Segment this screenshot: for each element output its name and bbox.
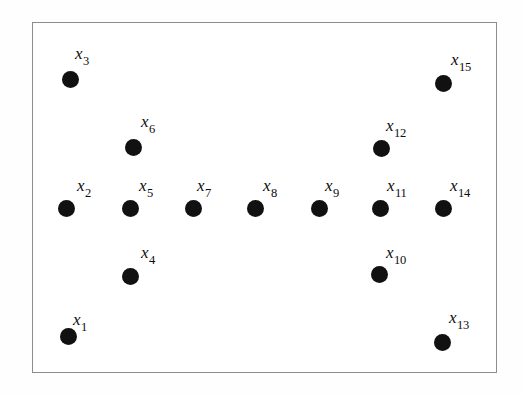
data-point-x7 xyxy=(185,200,202,217)
point-label-base: x xyxy=(386,243,394,262)
point-label-x3: x3 xyxy=(75,45,89,66)
data-point-x8 xyxy=(247,200,264,217)
point-label-subscript: 9 xyxy=(333,186,339,200)
point-label-base: x xyxy=(197,176,205,195)
point-label-x4: x4 xyxy=(141,244,155,265)
point-label-base: x xyxy=(387,176,395,195)
point-label-base: x xyxy=(386,116,394,135)
point-label-x10: x10 xyxy=(386,244,405,265)
point-label-x15: x15 xyxy=(451,51,470,72)
data-point-x2 xyxy=(58,200,75,217)
point-label-x9: x9 xyxy=(325,177,339,198)
data-point-x12 xyxy=(373,140,390,157)
point-label-subscript: 2 xyxy=(85,186,91,200)
point-label-x7: x7 xyxy=(197,177,211,198)
point-label-subscript: 8 xyxy=(271,186,277,200)
point-label-base: x xyxy=(263,176,271,195)
point-label-base: x xyxy=(77,176,85,195)
point-label-x8: x8 xyxy=(263,177,277,198)
point-label-subscript: 15 xyxy=(459,60,471,74)
point-label-subscript: 14 xyxy=(458,186,470,200)
point-label-subscript: 5 xyxy=(147,186,153,200)
point-label-x2: x2 xyxy=(77,177,91,198)
point-label-x11: x11 xyxy=(387,177,406,198)
data-point-x9 xyxy=(311,200,328,217)
point-label-base: x xyxy=(451,50,459,69)
point-label-base: x xyxy=(141,243,149,262)
point-label-x14: x14 xyxy=(450,177,469,198)
point-label-x5: x5 xyxy=(139,177,153,198)
point-label-subscript: 7 xyxy=(205,186,211,200)
data-point-x11 xyxy=(372,200,389,217)
point-label-x12: x12 xyxy=(386,117,405,138)
data-point-x13 xyxy=(434,334,451,351)
point-label-subscript: 11 xyxy=(395,186,406,200)
data-point-x14 xyxy=(435,200,452,217)
point-label-base: x xyxy=(449,308,457,327)
point-label-subscript: 3 xyxy=(83,54,89,68)
data-point-x4 xyxy=(122,268,139,285)
point-label-base: x xyxy=(450,176,458,195)
data-point-x10 xyxy=(371,266,388,283)
data-point-x5 xyxy=(122,200,139,217)
point-label-subscript: 1 xyxy=(81,320,87,334)
point-label-base: x xyxy=(141,112,149,131)
point-label-base: x xyxy=(325,176,333,195)
point-label-x6: x6 xyxy=(141,113,155,134)
plot-frame: x1x2x3x4x5x6x7x8x9x10x11x12x13x14x15 xyxy=(32,22,497,373)
data-point-x3 xyxy=(62,71,79,88)
data-point-x6 xyxy=(125,139,142,156)
point-label-base: x xyxy=(139,176,147,195)
point-label-base: x xyxy=(75,44,83,63)
point-label-x13: x13 xyxy=(449,309,468,330)
point-label-base: x xyxy=(73,310,81,329)
point-label-x1: x1 xyxy=(73,311,87,332)
point-label-subscript: 12 xyxy=(394,126,406,140)
point-label-subscript: 10 xyxy=(394,253,406,267)
data-point-x15 xyxy=(435,75,452,92)
point-label-subscript: 13 xyxy=(457,318,469,332)
point-label-subscript: 6 xyxy=(149,122,155,136)
figure-canvas: x1x2x3x4x5x6x7x8x9x10x11x12x13x14x15 xyxy=(0,0,523,394)
point-label-subscript: 4 xyxy=(149,253,155,267)
